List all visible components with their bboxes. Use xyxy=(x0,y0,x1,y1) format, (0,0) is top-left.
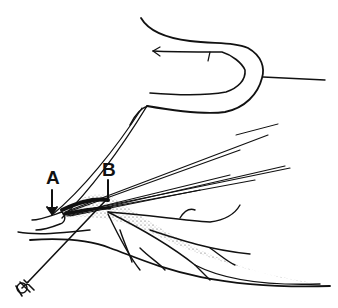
illustration xyxy=(0,0,338,308)
label-b: B xyxy=(102,160,116,179)
label-a: A xyxy=(46,168,60,187)
arrow-a xyxy=(47,190,57,214)
loop-structure xyxy=(130,18,325,125)
